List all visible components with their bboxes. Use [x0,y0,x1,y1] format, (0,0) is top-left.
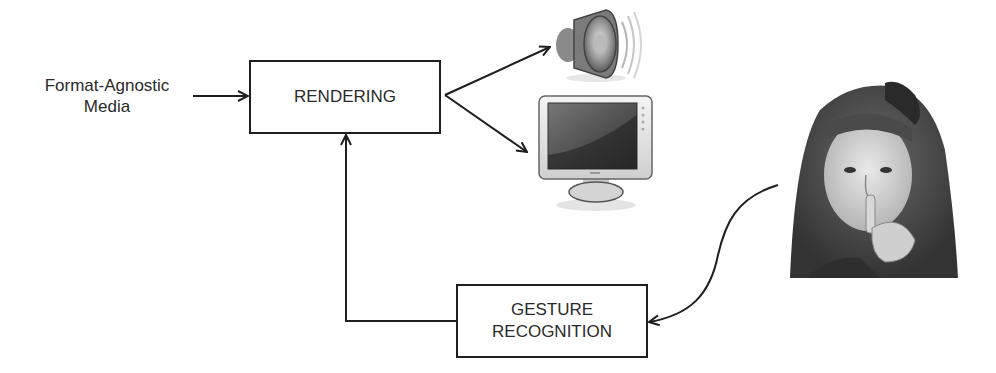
arrow-gesture-to-rendering [346,135,457,321]
monitor-icon [539,96,652,211]
gesture-label-line1: GESTURE [511,299,593,321]
gesture-recognition-node: GESTURE RECOGNITION [456,284,648,358]
arrow-rendering-to-speaker [445,47,550,95]
speaker-icon [556,10,641,82]
rendering-label: RENDERING [294,86,396,108]
gesture-label-line2: RECOGNITION [492,321,612,343]
rendering-node: RENDERING [249,60,441,134]
arrow-rendering-to-monitor [445,95,527,152]
input-label: Format-Agnostic Media [28,75,186,117]
arrow-user-to-gesture [649,185,778,322]
person-photo [790,82,958,278]
input-label-line1: Format-Agnostic [28,75,186,96]
input-label-line2: Media [28,96,186,117]
